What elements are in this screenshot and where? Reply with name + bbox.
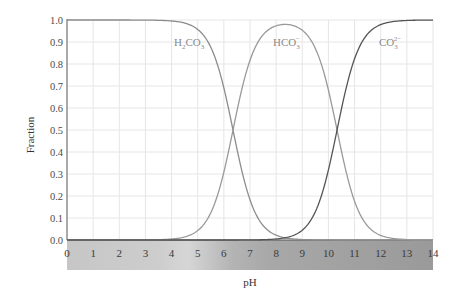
y-tick-label: 0.5 [50, 125, 63, 136]
y-tick-label: 0.3 [50, 169, 63, 180]
label-co3: CO32− [379, 35, 401, 51]
x-tick-label: 4 [169, 247, 175, 259]
y-tick-label: 0.2 [50, 191, 63, 202]
y-tick-label: 1.0 [50, 15, 63, 26]
label-h2co3: H2CO3 [174, 36, 205, 51]
x-axis: 01234567891011121314 [64, 247, 439, 259]
x-tick-label: 13 [401, 247, 413, 259]
x-tick-label: 7 [247, 247, 253, 259]
x-tick-label: 10 [323, 247, 335, 259]
x-tick-label: 0 [64, 247, 70, 259]
y-axis-label: Fraction [24, 116, 36, 153]
speciation-chart: 0.00.10.20.30.40.50.60.70.80.91.0 012345… [0, 0, 455, 296]
x-tick-label: 2 [117, 247, 123, 259]
y-tick-label: 0.1 [50, 213, 63, 224]
x-tick-label: 12 [375, 247, 386, 259]
y-tick-label: 0.8 [50, 59, 63, 70]
label-hco3: HCO3− [273, 35, 300, 51]
x-tick-label: 11 [349, 247, 360, 259]
y-tick-label: 0.4 [50, 147, 64, 158]
y-axis: 0.00.10.20.30.40.50.60.70.80.91.0 [50, 15, 64, 246]
x-tick-label: 6 [221, 247, 227, 259]
x-tick-label: 8 [273, 247, 279, 259]
y-tick-label: 0.6 [50, 103, 63, 114]
grid [67, 20, 433, 240]
y-tick-label: 0.0 [50, 235, 63, 246]
x-tick-label: 14 [428, 247, 440, 259]
x-tick-label: 3 [143, 247, 149, 259]
y-tick-label: 0.9 [50, 37, 63, 48]
x-axis-label: pH [243, 276, 257, 288]
y-tick-label: 0.7 [50, 81, 63, 92]
x-tick-label: 9 [300, 247, 306, 259]
x-tick-label: 1 [90, 247, 96, 259]
x-tick-label: 5 [195, 247, 201, 259]
